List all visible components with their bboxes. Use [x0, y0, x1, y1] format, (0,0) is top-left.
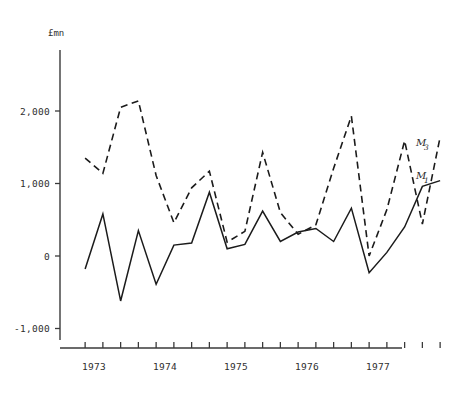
- legend-subscript-m3: 3: [424, 143, 429, 152]
- y-tick-label-3: 2,000: [20, 106, 50, 117]
- x-tick-label-4: 1977: [366, 361, 390, 372]
- x-axis-ticks: [85, 342, 440, 348]
- chart-axes: [60, 50, 402, 348]
- line-chart: -1,00001,0002,000 19731974197519761977 £…: [0, 0, 455, 403]
- x-tick-label-1: 1974: [153, 361, 177, 372]
- chart-legend: M 3 M 1: [415, 137, 429, 185]
- y-tick-label-2: 1,000: [20, 178, 50, 189]
- x-axis-tick-labels: 19731974197519761977: [82, 361, 390, 372]
- y-axis-tick-labels: -1,00001,0002,000: [14, 106, 50, 335]
- legend-subscript-m1: 1: [424, 176, 429, 185]
- y-axis-unit-label: £mn: [48, 28, 64, 38]
- x-tick-label-0: 1973: [82, 361, 106, 372]
- y-axis-ticks: [55, 111, 60, 329]
- chart-container: -1,00001,0002,000 19731974197519761977 £…: [0, 0, 455, 403]
- series-line-m1: [85, 181, 440, 301]
- x-tick-label-3: 1976: [295, 361, 319, 372]
- y-tick-label-0: -1,000: [14, 323, 50, 334]
- x-tick-label-2: 1975: [224, 361, 248, 372]
- y-tick-label-1: 0: [44, 251, 50, 262]
